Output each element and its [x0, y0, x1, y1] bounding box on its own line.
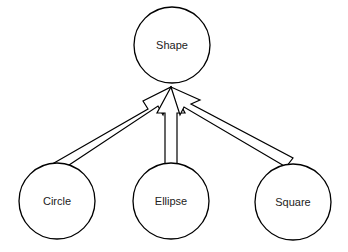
- node-circle[interactable]: Circle: [19, 163, 95, 239]
- node-label-circle: Circle: [43, 195, 71, 207]
- node-ellipse[interactable]: Ellipse: [133, 163, 209, 239]
- node-label-square: Square: [275, 196, 310, 208]
- node-shape[interactable]: Shape: [134, 7, 210, 83]
- inheritance-diagram: Shape Circle Ellipse Square: [0, 0, 348, 252]
- arrow-circle-to-shape: [54, 87, 171, 169]
- node-label-shape: Shape: [156, 39, 188, 51]
- node-label-ellipse: Ellipse: [155, 195, 187, 207]
- arrow-square-to-shape: [171, 87, 293, 167]
- node-square[interactable]: Square: [255, 164, 331, 240]
